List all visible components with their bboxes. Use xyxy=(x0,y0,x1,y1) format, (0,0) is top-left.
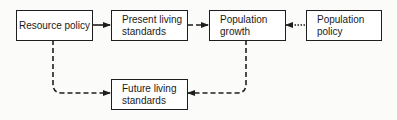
node-present-living-standards: Present living standards xyxy=(111,10,188,41)
node-label: Population growth xyxy=(210,14,267,37)
diagram-canvas: Resource policy Present living standards… xyxy=(0,0,397,120)
edge-growth-to-future xyxy=(188,40,246,93)
node-label: Present living standards xyxy=(112,14,182,37)
node-label: Population policy xyxy=(307,14,364,37)
edge-resource-to-future xyxy=(53,40,110,93)
node-label: Future living standards xyxy=(112,83,176,106)
node-label: Resource policy xyxy=(17,20,92,32)
node-future-living-standards: Future living standards xyxy=(111,79,188,110)
node-resource-policy: Resource policy xyxy=(16,10,93,41)
node-population-growth: Population growth xyxy=(209,10,286,41)
node-population-policy: Population policy xyxy=(306,10,382,41)
